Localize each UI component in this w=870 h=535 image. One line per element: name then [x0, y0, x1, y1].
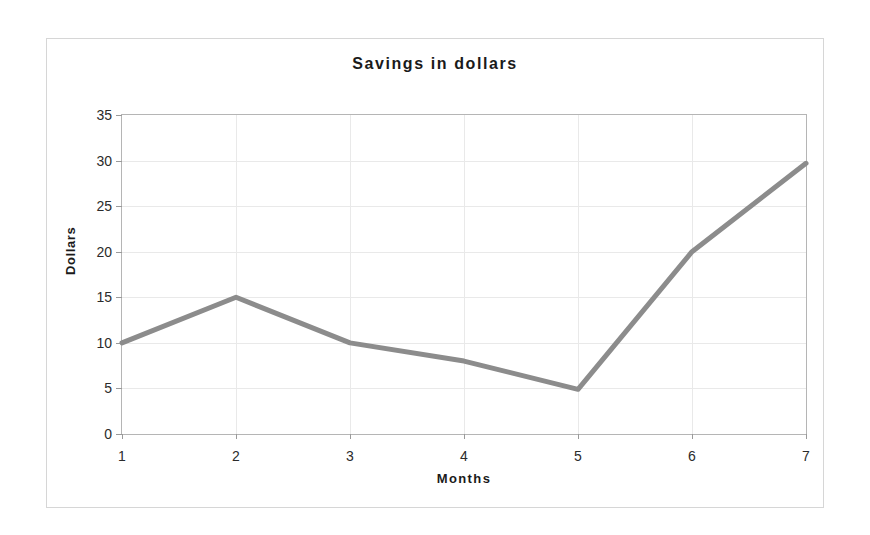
- y-axis-tick-label: 10: [96, 335, 112, 351]
- x-axis-tick-label: 5: [574, 448, 582, 464]
- x-axis-tick: [236, 434, 237, 439]
- y-axis-tick-label: 15: [96, 289, 112, 305]
- x-axis-tick: [464, 434, 465, 439]
- y-axis-tick-label: 5: [104, 380, 112, 396]
- plot-area: 05101520253035 1234567: [121, 114, 807, 435]
- x-axis-title: Months: [121, 471, 807, 486]
- y-axis-tick-label: 35: [96, 107, 112, 123]
- x-axis-tick-label: 4: [460, 448, 468, 464]
- y-axis-tick-label: 0: [104, 426, 112, 442]
- x-axis-tick-label: 3: [346, 448, 354, 464]
- x-axis-tick-label: 7: [802, 448, 810, 464]
- x-axis-tick: [122, 434, 123, 439]
- x-axis-tick: [806, 434, 807, 439]
- y-axis-title: Dollars: [63, 227, 78, 275]
- x-axis-tick-label: 2: [232, 448, 240, 464]
- y-axis-tick-label: 30: [96, 153, 112, 169]
- chart-title: Savings in dollars: [47, 55, 823, 73]
- series-polyline: [122, 163, 806, 389]
- line-series-savings: [122, 115, 806, 434]
- y-axis-tick-label: 20: [96, 244, 112, 260]
- x-axis-tick: [350, 434, 351, 439]
- y-axis-tick-label: 25: [96, 198, 112, 214]
- x-axis-tick: [692, 434, 693, 439]
- x-axis-tick: [578, 434, 579, 439]
- x-axis-tick-label: 1: [118, 448, 126, 464]
- x-axis-tick-label: 6: [688, 448, 696, 464]
- chart-frame: Savings in dollars Dollars 0510152025303…: [46, 38, 824, 508]
